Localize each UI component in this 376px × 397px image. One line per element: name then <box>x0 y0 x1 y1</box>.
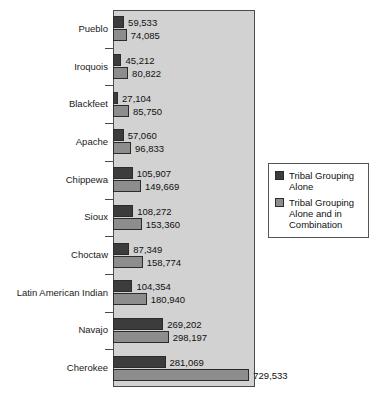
bar-value-label: 158,774 <box>147 257 181 268</box>
bar-alone <box>113 54 121 66</box>
bar-combo <box>113 142 131 154</box>
bar-alone <box>113 167 133 179</box>
bar-value-label: 59,533 <box>128 17 157 28</box>
bar-value-label: 27,104 <box>122 93 151 104</box>
category-label: Choctaw <box>71 249 108 260</box>
bar-alone <box>113 205 133 217</box>
bar-value-label: 298,197 <box>173 332 207 343</box>
bar-combo <box>113 369 249 381</box>
axis-tick <box>105 274 113 275</box>
category-label: Cherokee <box>67 362 108 373</box>
bar-value-label: 80,822 <box>132 68 161 79</box>
bar-alone <box>113 280 132 292</box>
category-label: Blackfeet <box>69 98 108 109</box>
bar-combo <box>113 256 143 268</box>
legend-item: Tribal Grouping Alone <box>275 170 363 192</box>
bar-value-label: 87,349 <box>133 244 162 255</box>
bar-alone <box>113 356 166 368</box>
bar-value-label: 105,907 <box>137 168 171 179</box>
category-label: Pueblo <box>78 23 108 34</box>
legend-label: Tribal Grouping Alone and in Combination <box>289 197 363 230</box>
bar-value-label: 96,833 <box>135 143 164 154</box>
axis-tick <box>105 312 113 313</box>
category-label: Latin American Indian <box>17 287 108 298</box>
bar-value-label: 108,272 <box>137 206 171 217</box>
category-label: Chippewa <box>66 174 108 185</box>
axis-tick <box>105 349 113 350</box>
axis-tick <box>105 161 113 162</box>
bar-value-label: 57,060 <box>128 130 157 141</box>
axis-tick <box>105 85 113 86</box>
bar-combo <box>113 180 141 192</box>
chart-caption <box>0 391 376 397</box>
bar-value-label: 281,069 <box>170 357 204 368</box>
bar-value-label: 85,750 <box>133 106 162 117</box>
bar-alone <box>113 318 163 330</box>
bar-value-label: 104,354 <box>136 281 170 292</box>
category-label: Apache <box>76 136 108 147</box>
bar-value-label: 269,202 <box>167 319 201 330</box>
bar-combo <box>113 293 147 305</box>
bar-combo <box>113 331 169 343</box>
axis-tick <box>105 48 113 49</box>
bar-alone <box>113 243 129 255</box>
category-label: Sioux <box>84 211 108 222</box>
bar-value-label: 180,940 <box>151 294 185 305</box>
bar-alone <box>113 92 118 104</box>
axis-tick <box>105 123 113 124</box>
bar-value-label: 45,212 <box>125 55 154 66</box>
legend-swatch-alone-icon <box>275 171 284 180</box>
category-label: Iroquois <box>74 61 108 72</box>
axis-tick <box>105 199 113 200</box>
bar-chart: 59,53374,08545,21280,82227,10485,75057,0… <box>0 0 376 397</box>
bar-combo <box>113 67 128 79</box>
bar-combo <box>113 29 127 41</box>
bar-combo <box>113 105 129 117</box>
bar-combo <box>113 218 142 230</box>
bar-alone <box>113 16 124 28</box>
bar-value-label: 153,360 <box>146 219 180 230</box>
legend: Tribal Grouping Alone Tribal Grouping Al… <box>268 163 369 238</box>
legend-item: Tribal Grouping Alone and in Combination <box>275 197 363 230</box>
category-label: Navajo <box>78 324 108 335</box>
axis-tick <box>105 236 113 237</box>
bar-value-label: 729,533 <box>253 370 287 381</box>
bar-value-label: 149,669 <box>145 181 179 192</box>
bar-value-label: 74,085 <box>131 30 160 41</box>
bar-alone <box>113 129 124 141</box>
legend-swatch-combo-icon <box>275 198 284 207</box>
legend-label: Tribal Grouping Alone <box>289 170 363 192</box>
